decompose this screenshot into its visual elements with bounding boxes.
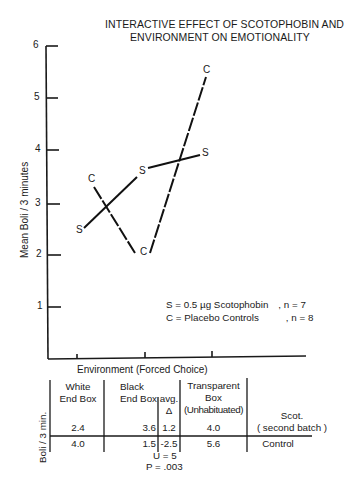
y-tick-label: 6: [33, 39, 39, 50]
legend-n: , n = 8: [286, 312, 314, 323]
legend-text: S = 0.5 µg Scotophobin: [166, 299, 268, 310]
marker-c-transparent: C: [203, 64, 210, 75]
legend-n: , n = 7: [278, 299, 306, 310]
cell-control-avg: -2.5: [157, 438, 181, 450]
header-black: Black End Box: [108, 381, 158, 405]
marker-s-black: S: [139, 165, 146, 176]
header-transparent: Transparent Box (Unhabituated): [178, 380, 249, 416]
stat-p: P = .003: [146, 461, 183, 473]
table-row-label: Boli / 3 min.: [37, 412, 48, 463]
marker-s-white: S: [76, 224, 83, 235]
row-label-control: Control: [247, 438, 309, 450]
cell-control-transparent: 5.6: [180, 438, 247, 450]
marker-c-black: C: [140, 246, 147, 257]
marker-c-white: C: [88, 173, 95, 184]
cell-control-black: 1.5: [106, 438, 156, 450]
legend-item-c: C = Placebo Controls, n = 8: [166, 311, 313, 324]
cell-control-white: 4.0: [52, 438, 104, 450]
cell-scot-black: 3.6: [106, 422, 156, 434]
y-tick-label: 2: [36, 248, 42, 259]
marker-s-transparent: S: [202, 147, 209, 158]
row-label-scot: Scot. ( second batch ): [247, 410, 337, 434]
y-tick-label: 3: [35, 197, 41, 208]
y-tick-label: 5: [34, 91, 40, 102]
cell-scot-transparent: 4.0: [180, 422, 247, 434]
y-tick-label: 4: [35, 143, 41, 154]
cell-scot-avg: 1.2: [158, 422, 180, 434]
header-avg-delta: avg. Δ: [158, 393, 180, 417]
legend-item-s: S = 0.5 µg Scotophobin, n = 7: [166, 298, 313, 311]
y-axis: [46, 46, 48, 359]
x-axis: [48, 356, 306, 359]
y-axis-label: Mean Boli / 3 minutes: [19, 162, 30, 258]
cell-scot-white: 2.4: [52, 422, 104, 434]
legend-text: C = Placebo Controls: [166, 312, 259, 323]
header-white: White End Box: [52, 381, 104, 405]
y-tick-label: 1: [37, 300, 43, 311]
legend: S = 0.5 µg Scotophobin, n = 7 C = Placeb…: [166, 298, 313, 324]
series-c-line: [94, 77, 206, 253]
x-axis-label: Environment (Forced Choice): [77, 364, 208, 375]
